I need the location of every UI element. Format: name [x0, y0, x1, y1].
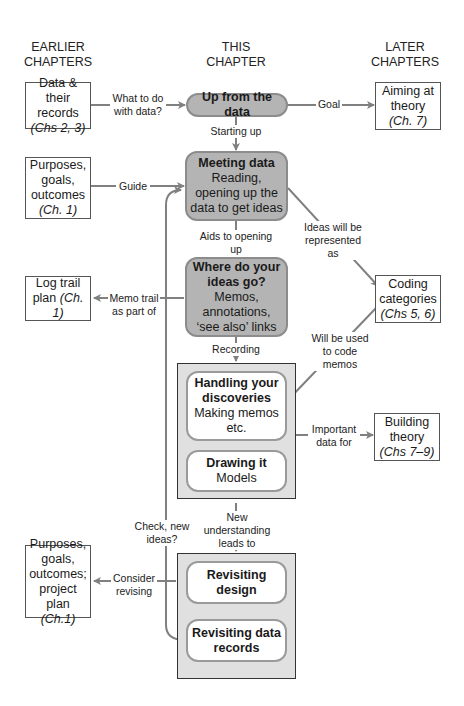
label-line: memos — [307, 358, 373, 371]
box-text: outcomes; — [29, 567, 87, 582]
node-revisiting-design: Revisiting design — [186, 561, 287, 604]
box-text: Purposes, — [30, 158, 86, 173]
label-line: to code — [307, 345, 373, 358]
node-title: Handling your — [194, 376, 278, 391]
label-line: Will be used — [307, 332, 373, 345]
chapter-ref: (Chs 2, 3) — [31, 121, 86, 136]
label-line: represented as — [298, 234, 368, 260]
box-data-and-records: Data & their records (Chs 2, 3) — [25, 82, 91, 129]
label-line: ideas? — [134, 533, 190, 546]
box-purposes-goals: Purposes, goals, outcomes (Ch. 1) — [25, 157, 91, 219]
box-purposes-project-plan: Purposes, goals, outcomes; project plan … — [25, 545, 91, 618]
label-line: data for — [308, 436, 360, 449]
column-heading-earlier: EARLIER CHAPTERS — [18, 40, 98, 70]
node-handling-discoveries: Handling your discoveries Making memos e… — [186, 371, 287, 441]
node-body: Memos, — [214, 290, 258, 305]
label-goal: Goal — [316, 98, 342, 111]
heading-line: THIS — [196, 40, 276, 55]
box-text: goals, — [41, 173, 74, 188]
label-what-to-do-with-data: What to do with data? — [110, 92, 166, 118]
node-title: Meeting data — [198, 156, 274, 171]
box-text-inline: plan — [33, 291, 60, 305]
label-recording: Recording — [206, 343, 266, 356]
node-body: Making memos — [194, 406, 279, 421]
node-up-from-the-data: Up from the data — [186, 93, 288, 117]
node-title: ideas go? — [207, 275, 265, 290]
label-line: leads to — [194, 537, 280, 550]
label-line: Important — [308, 423, 360, 436]
column-heading-later: LATER CHAPTERS — [365, 40, 445, 70]
node-body: Reading, — [211, 171, 261, 186]
label-line: revising — [111, 585, 157, 598]
label-new-understanding: New understanding leads to — [194, 511, 280, 550]
label-line: as part of — [108, 305, 160, 318]
box-text: Building — [385, 415, 429, 430]
box-text: Coding — [388, 277, 428, 292]
heading-line: EARLIER — [18, 40, 98, 55]
label-will-be-used-to-code-memos: Will be used to code memos — [307, 332, 373, 371]
chapter-ref: (Chs 5, 6) — [381, 307, 436, 322]
label-check-new-ideas: Check, new ideas? — [134, 520, 190, 546]
node-title: discoveries — [202, 391, 271, 406]
label-guide: Guide — [116, 180, 150, 193]
heading-line: CHAPTERS — [18, 55, 98, 70]
label-line: Consider — [111, 572, 157, 585]
chapter-ref: (Ch. 7) — [389, 114, 427, 129]
node-body: ‘see also’ links — [196, 320, 276, 335]
box-text: categories — [379, 292, 437, 307]
node-where-do-ideas-go: Where do your ideas go? Memos, annotatio… — [185, 257, 288, 337]
label-line: Ideas will be — [298, 221, 368, 234]
node-drawing-it: Drawing it Models — [186, 450, 287, 492]
node-title: records — [214, 641, 260, 656]
box-text: records — [37, 106, 79, 121]
chapter-ref: (Ch.1) — [41, 612, 76, 627]
node-meeting-data: Meeting data Reading, opening up the dat… — [185, 151, 288, 221]
box-text: plan (Ch. 1) — [28, 291, 88, 321]
label-line: What to do — [110, 92, 166, 105]
box-text: project plan — [28, 582, 88, 612]
node-body: opening up the — [195, 186, 278, 201]
label-starting-up: Starting up — [204, 125, 268, 138]
node-title: Revisiting data — [192, 626, 281, 641]
box-text: theory — [391, 99, 426, 114]
box-log-trail: Log trail plan (Ch. 1) — [25, 276, 91, 321]
node-body: etc. — [226, 421, 246, 436]
node-title: Drawing it — [206, 456, 266, 471]
node-title: Where do your — [193, 260, 281, 275]
label-aids-to-opening-up: Aids to opening up — [196, 230, 276, 256]
label-important-data-for: Important data for — [308, 423, 360, 449]
box-aiming-at-theory: Aiming at theory (Ch. 7) — [375, 82, 441, 130]
label-line: Memo trail — [108, 292, 160, 305]
heading-line: CHAPTERS — [365, 55, 445, 70]
label-line: Check, new — [134, 520, 190, 533]
node-revisiting-data-records: Revisiting data records — [186, 619, 287, 662]
box-coding-categories: Coding categories (Chs 5, 6) — [375, 275, 441, 323]
heading-line: LATER — [365, 40, 445, 55]
node-body: annotations, — [202, 305, 270, 320]
box-building-theory: Building theory (Chs 7–9) — [374, 413, 440, 461]
box-text: Aiming at — [382, 84, 434, 99]
chapter-ref: (Chs 7–9) — [380, 445, 435, 460]
label-line: New understanding — [194, 511, 280, 537]
node-body: Models — [216, 471, 256, 486]
node-title: design — [216, 583, 256, 598]
box-text: goals, — [41, 552, 74, 567]
column-heading-this: THIS CHAPTER — [196, 40, 276, 70]
node-title: Up from the data — [188, 90, 286, 120]
box-text: theory — [390, 430, 425, 445]
label-ideas-represented-as: Ideas will be represented as — [298, 221, 368, 260]
box-text: outcomes — [31, 188, 85, 203]
box-text: Log trail — [36, 276, 80, 291]
label-memo-trail: Memo trail as part of — [108, 292, 160, 318]
node-title: Revisiting — [207, 568, 267, 583]
label-line: with data? — [110, 105, 166, 118]
box-text: Data & their — [28, 76, 88, 106]
heading-line: CHAPTER — [196, 55, 276, 70]
chapter-ref: (Ch. 1) — [39, 203, 77, 218]
box-text: Purposes, — [30, 537, 86, 552]
node-body: data to get ideas — [190, 201, 282, 216]
label-consider-revising: Consider revising — [111, 572, 157, 598]
